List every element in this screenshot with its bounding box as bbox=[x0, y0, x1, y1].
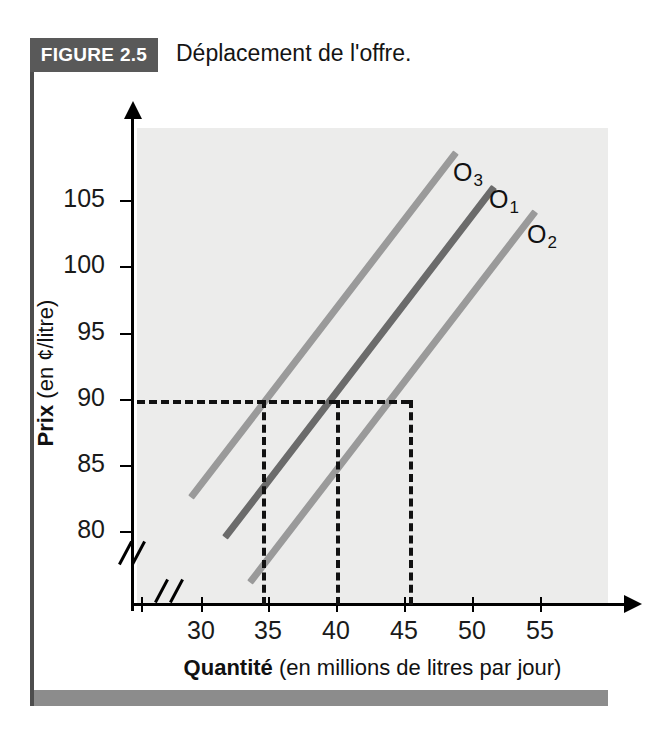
y-axis-line bbox=[131, 115, 134, 611]
x-tick-label-50: 50 bbox=[442, 616, 502, 645]
y-axis-title-strong: Prix bbox=[33, 405, 58, 447]
y-tick-100 bbox=[120, 266, 134, 268]
curve-label-o1-text: O bbox=[489, 185, 508, 213]
x-tick-label-45: 45 bbox=[374, 616, 434, 645]
x-tick-label-35: 35 bbox=[238, 616, 298, 645]
y-tick-label-105: 105 bbox=[45, 184, 105, 213]
curve-label-o3-sub: 3 bbox=[473, 171, 482, 190]
y-tick-80 bbox=[120, 531, 134, 533]
x-axis-title-rest: (en millions de litres par jour) bbox=[273, 655, 562, 680]
y-tick-85 bbox=[120, 465, 134, 467]
quantity-guide-line-45 bbox=[409, 400, 413, 605]
curve-label-o3-text: O bbox=[453, 158, 472, 186]
curve-label-o2-sub: 2 bbox=[547, 233, 556, 252]
supply-shift-chart: 105 100 95 90 85 80 30 35 40 45 50 55 O3… bbox=[0, 0, 666, 690]
curve-label-o3: O3 bbox=[453, 158, 482, 187]
curve-label-o2: O2 bbox=[527, 220, 556, 249]
x-tick-label-40: 40 bbox=[306, 616, 366, 645]
x-tick-55 bbox=[540, 597, 542, 612]
plot-area-background bbox=[137, 128, 608, 605]
x-tick-50 bbox=[472, 597, 474, 612]
x-tick-label-30: 30 bbox=[171, 616, 231, 645]
y-tick-90 bbox=[120, 399, 134, 401]
x-tick-30 bbox=[201, 597, 203, 612]
y-axis-arrow-icon bbox=[124, 101, 142, 119]
curve-label-o2-text: O bbox=[527, 220, 546, 248]
y-tick-95 bbox=[120, 333, 134, 335]
x-axis-title-strong: Quantité bbox=[184, 655, 273, 680]
y-tick-label-80: 80 bbox=[45, 515, 105, 544]
y-tick-105 bbox=[120, 200, 134, 202]
x-axis-arrow-icon bbox=[624, 595, 642, 613]
quantity-guide-line-40 bbox=[336, 400, 340, 605]
x-tick-45 bbox=[404, 597, 406, 612]
quantity-guide-line-35 bbox=[262, 400, 266, 605]
x-tick-35 bbox=[268, 597, 270, 612]
y-axis-title-rest: (en ¢/litre) bbox=[33, 300, 58, 405]
y-axis-title: Prix (en ¢/litre) bbox=[33, 258, 59, 488]
x-tick-label-55: 55 bbox=[510, 616, 570, 645]
curve-label-o1-sub: 1 bbox=[509, 198, 518, 217]
x-axis-line bbox=[131, 603, 631, 606]
figure-bottom-bar bbox=[34, 690, 608, 706]
price-guide-line-90 bbox=[137, 400, 409, 404]
x-axis-origin-tick bbox=[141, 597, 143, 612]
curve-label-o1: O1 bbox=[489, 185, 518, 214]
x-axis-title: Quantité (en millions de litres par jour… bbox=[137, 655, 608, 681]
